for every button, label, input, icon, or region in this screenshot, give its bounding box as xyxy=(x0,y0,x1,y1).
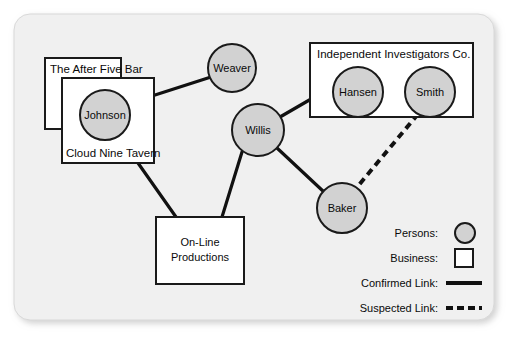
legend-label-business: Business: xyxy=(390,252,438,264)
legend-label-persons: Persons: xyxy=(395,227,438,239)
person-label-baker: Baker xyxy=(328,202,357,214)
business-label-on-line-productions: On-Line xyxy=(180,236,219,248)
person-node-hansen[interactable]: Hansen xyxy=(333,67,383,117)
legend-square-icon xyxy=(455,249,473,267)
link-analysis-diagram: The After Five BarCloud Nine TavernOn-Li… xyxy=(0,0,522,340)
person-label-weaver: Weaver xyxy=(213,62,251,74)
person-label-hansen: Hansen xyxy=(339,86,377,98)
person-label-johnson: Johnson xyxy=(84,109,126,121)
legend-label-confirmed-link: Confirmed Link: xyxy=(361,277,438,289)
business-label-cloud-nine-tavern: Cloud Nine Tavern xyxy=(66,147,160,159)
person-node-weaver[interactable]: Weaver xyxy=(208,44,256,92)
business-on-line-productions[interactable]: On-LineProductions xyxy=(156,217,244,284)
person-node-smith[interactable]: Smith xyxy=(405,67,455,117)
business-label2-on-line-productions: Productions xyxy=(171,251,230,263)
person-node-willis[interactable]: Willis xyxy=(232,104,284,156)
business-label-independent-investigators: Independent Investigators Co. xyxy=(317,48,470,60)
person-node-baker[interactable]: Baker xyxy=(317,183,367,233)
business-label-after-five-bar: The After Five Bar xyxy=(50,63,143,75)
person-node-johnson[interactable]: Johnson xyxy=(80,90,130,140)
diagram-canvas: The After Five BarCloud Nine TavernOn-Li… xyxy=(0,0,522,340)
legend-label-suspected-link: Suspected Link: xyxy=(360,302,438,314)
person-label-smith: Smith xyxy=(416,86,444,98)
legend-circle-icon xyxy=(455,223,475,243)
person-label-willis: Willis xyxy=(245,124,271,136)
